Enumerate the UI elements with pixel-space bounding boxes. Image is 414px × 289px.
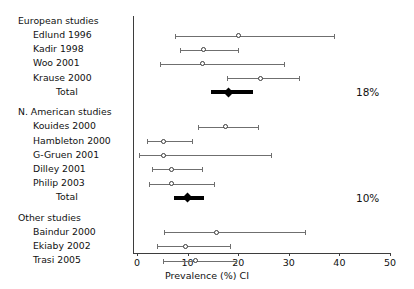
point-estimate-marker [169, 181, 174, 186]
confidence-interval-cap [160, 62, 161, 67]
x-tick-label: 40 [333, 257, 345, 268]
confidence-interval-line [198, 127, 259, 128]
x-axis-title: Prevalence (%) CI [0, 270, 414, 281]
confidence-interval-cap [258, 125, 259, 130]
x-tick-label: 20 [232, 257, 244, 268]
point-estimate-marker [169, 167, 174, 172]
confidence-interval-cap [157, 244, 158, 249]
confidence-interval-cap [164, 230, 165, 235]
point-estimate-marker [200, 61, 205, 66]
x-tick-mark [339, 253, 340, 256]
confidence-interval-cap [271, 153, 272, 158]
point-estimate-marker [236, 33, 241, 38]
confidence-interval-line [147, 141, 192, 142]
summary-annotation: 18% [356, 86, 379, 98]
confidence-interval-line [163, 261, 235, 262]
confidence-interval-line [157, 246, 229, 247]
confidence-interval-cap [214, 182, 215, 187]
x-tick-mark [390, 253, 391, 256]
point-estimate-marker [183, 244, 188, 249]
confidence-interval-line [175, 36, 334, 37]
confidence-interval-cap [299, 76, 300, 81]
confidence-interval-cap [180, 48, 181, 53]
plot-area: 01020304050 18%10% Prevalence (%) CI [0, 0, 414, 289]
confidence-interval-cap [192, 139, 193, 144]
x-tick-label: 50 [384, 257, 396, 268]
confidence-interval-cap [305, 230, 306, 235]
confidence-interval-cap [238, 48, 239, 53]
summary-estimate-diamond [223, 87, 233, 97]
confidence-interval-cap [334, 34, 335, 39]
forest-plot-figure: European studiesEdlund 1996Kadir 1998Woo… [0, 0, 414, 289]
confidence-interval-cap [175, 34, 176, 39]
confidence-interval-line [160, 64, 284, 65]
x-tick-label: 10 [182, 257, 194, 268]
point-estimate-marker [161, 139, 166, 144]
confidence-interval-line [180, 50, 238, 51]
x-tick-mark [289, 253, 290, 256]
confidence-interval-line [152, 169, 202, 170]
point-estimate-marker [201, 47, 206, 52]
confidence-interval-cap [149, 182, 150, 187]
confidence-interval-line [139, 155, 272, 156]
confidence-interval-cap [147, 139, 148, 144]
summary-estimate-diamond [183, 193, 193, 203]
x-tick-label: 30 [283, 257, 295, 268]
x-tick-mark [188, 253, 189, 256]
point-estimate-marker [214, 230, 219, 235]
x-tick-label: 0 [134, 257, 140, 268]
y-axis-line [133, 16, 134, 254]
confidence-interval-cap [284, 62, 285, 67]
confidence-interval-line [164, 232, 306, 233]
point-estimate-marker [161, 153, 166, 158]
x-tick-mark [238, 253, 239, 256]
confidence-interval-cap [227, 76, 228, 81]
confidence-interval-line [149, 184, 215, 185]
confidence-interval-cap [236, 259, 237, 264]
point-estimate-marker [223, 124, 228, 129]
x-axis-line [133, 253, 391, 254]
point-estimate-marker [193, 258, 198, 263]
confidence-interval-cap [230, 244, 231, 249]
confidence-interval-cap [202, 167, 203, 172]
x-tick-mark [137, 253, 138, 256]
point-estimate-marker [258, 76, 263, 81]
confidence-interval-cap [198, 125, 199, 130]
confidence-interval-cap [152, 167, 153, 172]
confidence-interval-cap [139, 153, 140, 158]
summary-annotation: 10% [356, 192, 379, 204]
confidence-interval-cap [163, 259, 164, 264]
